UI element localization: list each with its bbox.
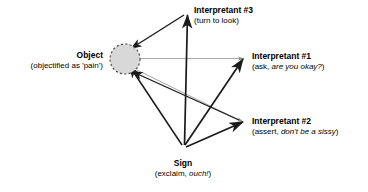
sign-subtitle: (exclaim, ouch!) bbox=[155, 169, 211, 180]
interpretant3-title: Interpretant #3 bbox=[194, 5, 253, 16]
interpretant2-subtitle: (assert, don't be a sissy) bbox=[252, 127, 338, 138]
sign-sub-prefix: (exclaim, bbox=[155, 169, 189, 178]
interpretant1-sub-italic: are you okay? bbox=[272, 62, 322, 71]
edge-sign-to-interpretant1 bbox=[185, 59, 243, 145]
sign-sub-suffix: ) bbox=[209, 169, 212, 178]
node-label-object: Object (objectified as 'pain') bbox=[31, 50, 103, 71]
interpretant2-sub-suffix: ) bbox=[336, 127, 339, 136]
object-node-circle bbox=[110, 44, 140, 74]
object-subtitle: (objectified as 'pain') bbox=[31, 61, 103, 72]
node-label-interpretant2: Interpretant #2 (assert, don't be a siss… bbox=[252, 116, 338, 137]
edge-sign-to-interpretant3 bbox=[185, 15, 188, 145]
interpretant3-subtitle: (turn to look) bbox=[194, 16, 253, 27]
sign-title: Sign bbox=[155, 158, 211, 169]
node-label-interpretant3: Interpretant #3 (turn to look) bbox=[194, 5, 253, 26]
object-title: Object bbox=[31, 50, 103, 61]
interpretant2-title: Interpretant #2 bbox=[252, 116, 338, 127]
edge-sign-to-interpretant2 bbox=[186, 122, 243, 147]
interpretant1-subtitle: (ask, are you okay?) bbox=[252, 62, 325, 73]
interpretant1-sub-prefix: (ask, bbox=[252, 62, 272, 71]
interpretant2-sub-prefix: (assert, bbox=[252, 127, 281, 136]
interpretant2-sub-italic: don't be a sissy bbox=[281, 127, 336, 136]
interpretant1-title: Interpretant #1 bbox=[252, 51, 325, 62]
interpretant1-sub-suffix: ) bbox=[322, 62, 325, 71]
node-label-interpretant1: Interpretant #1 (ask, are you okay?) bbox=[252, 51, 325, 72]
sign-sub-italic: ouch! bbox=[189, 169, 209, 178]
edge-sign-to-object bbox=[130, 66, 183, 145]
edge-interpretant3-to-object bbox=[131, 15, 184, 49]
node-label-sign: Sign (exclaim, ouch!) bbox=[155, 158, 211, 179]
